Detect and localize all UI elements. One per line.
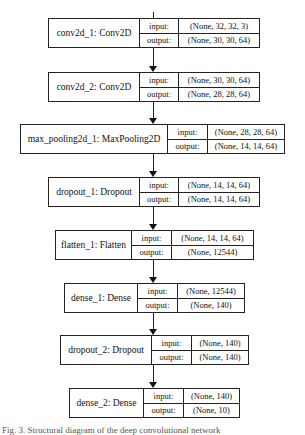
edge-3-4 — [153, 154, 154, 171]
output-shape: (None, 12544) — [172, 246, 253, 260]
io-values: (None, 12544) (None, 140) — [178, 284, 244, 312]
layer-node-max-pooling2d-1: max_pooling2d_1: MaxPooling2D input: out… — [20, 124, 285, 154]
io-values: (None, 28, 28, 64) (None, 14, 14, 64) — [208, 125, 284, 153]
figure-caption: Fig. 3. Structural diagram of the deep c… — [2, 425, 220, 435]
input-shape: (None, 28, 28, 64) — [208, 125, 284, 140]
input-label: input: — [152, 336, 191, 351]
output-label: output: — [140, 34, 178, 48]
layer-name: dense_1: Dense — [65, 284, 138, 312]
input-label: input: — [168, 125, 207, 140]
io-values: (None, 32, 32, 3) (None, 30, 30, 64) — [179, 19, 259, 47]
layer-name: dropout_1: Dropout — [49, 178, 140, 206]
output-label: output: — [132, 246, 171, 260]
io-values: (None, 30, 30, 64) (None, 28, 28, 64) — [179, 73, 259, 101]
layer-node-dense-1: dense_1: Dense input: output: (None, 125… — [64, 283, 245, 313]
layer-name: dense_2: Dense — [70, 389, 144, 417]
input-label: input: — [144, 389, 183, 404]
output-label: output: — [144, 404, 183, 418]
io-labels: input: output: — [140, 19, 179, 47]
layer-name: max_pooling2d_1: MaxPooling2D — [21, 125, 168, 153]
edge-1-2 — [153, 48, 154, 66]
io-labels: input: output: — [168, 125, 208, 153]
layer-node-dropout-2: dropout_2: Dropout input: output: (None,… — [60, 335, 249, 365]
input-label: input: — [140, 19, 178, 34]
output-label: output: — [140, 193, 178, 207]
io-labels: input: output: — [132, 231, 172, 259]
layer-name: conv2d_1: Conv2D — [49, 19, 140, 47]
layer-node-dropout-1: dropout_1: Dropout input: output: (None,… — [48, 177, 260, 207]
layer-name: flatten_1: Flatten — [56, 231, 132, 259]
output-label: output: — [138, 299, 177, 313]
layer-node-conv2d-2: conv2d_2: Conv2D input: output: (None, 3… — [48, 72, 260, 102]
output-label: output: — [168, 140, 207, 154]
io-values: (None, 14, 14, 64) (None, 12544) — [172, 231, 253, 259]
edge-7-8 — [153, 365, 154, 382]
input-label: input: — [132, 231, 171, 246]
output-shape: (None, 140) — [192, 351, 248, 365]
edge-2-3 — [153, 102, 154, 118]
layer-name: dropout_2: Dropout — [61, 336, 152, 364]
input-shape: (None, 140) — [192, 336, 248, 351]
io-labels: input: output: — [152, 336, 192, 364]
output-label: output: — [152, 351, 191, 365]
input-shape: (None, 32, 32, 3) — [179, 19, 259, 34]
output-shape: (None, 30, 30, 64) — [179, 34, 259, 48]
input-shape: (None, 12544) — [178, 284, 244, 299]
input-label: input: — [140, 73, 178, 88]
io-values: (None, 140) (None, 140) — [192, 336, 248, 364]
layer-node-flatten-1: flatten_1: Flatten input: output: (None,… — [55, 230, 254, 260]
edge-4-5 — [153, 207, 154, 224]
output-label: output: — [140, 88, 178, 102]
edge-6-7 — [153, 313, 154, 329]
io-values: (None, 140) (None, 10) — [184, 389, 239, 417]
input-shape: (None, 140) — [184, 389, 239, 404]
input-shape: (None, 14, 14, 64) — [179, 178, 259, 193]
output-shape: (None, 10) — [184, 404, 239, 418]
io-values: (None, 14, 14, 64) (None, 14, 14, 64) — [179, 178, 259, 206]
layer-node-dense-2: dense_2: Dense input: output: (None, 140… — [69, 388, 240, 418]
output-shape: (None, 14, 14, 64) — [179, 193, 259, 207]
edge-5-6 — [153, 260, 154, 277]
io-labels: input: output: — [138, 284, 178, 312]
output-shape: (None, 28, 28, 64) — [179, 88, 259, 102]
layer-name: conv2d_2: Conv2D — [49, 73, 140, 101]
io-labels: input: output: — [140, 73, 179, 101]
input-shape: (None, 14, 14, 64) — [172, 231, 253, 246]
output-shape: (None, 14, 14, 64) — [208, 140, 284, 154]
input-label: input: — [140, 178, 178, 193]
input-label: input: — [138, 284, 177, 299]
input-shape: (None, 30, 30, 64) — [179, 73, 259, 88]
io-labels: input: output: — [140, 178, 179, 206]
output-shape: (None, 140) — [178, 299, 244, 313]
layer-node-conv2d-1: conv2d_1: Conv2D input: output: (None, 3… — [48, 18, 260, 48]
io-labels: input: output: — [144, 389, 184, 417]
